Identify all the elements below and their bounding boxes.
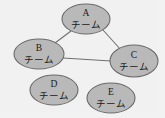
node-c[interactable]: C チーム (110, 45, 158, 77)
node-b-id-label: B (36, 43, 42, 53)
node-e-team-label: チーム (96, 98, 126, 109)
node-a-team-label: チーム (71, 19, 101, 30)
node-e[interactable]: E チーム (87, 83, 135, 113)
node-b[interactable]: B チーム (14, 39, 64, 69)
edge-a-b (55, 31, 71, 43)
node-c-team-label: チーム (119, 61, 149, 72)
node-a[interactable]: A チーム (62, 4, 110, 34)
node-d-id-label: D (51, 79, 58, 89)
node-c-id-label: C (131, 50, 137, 60)
team-graph: A チーム B チーム C チーム D チーム E チーム (0, 0, 165, 118)
node-d-team-label: チーム (39, 90, 69, 101)
node-d[interactable]: D チーム (30, 75, 78, 105)
node-b-team-label: チーム (24, 54, 54, 65)
node-e-id-label: E (108, 87, 114, 97)
node-a-id-label: A (83, 8, 90, 18)
diagram-canvas: A チーム B チーム C チーム D チーム E チーム (0, 0, 165, 118)
edge-a-c (103, 30, 121, 50)
edge-b-c (63, 58, 111, 61)
